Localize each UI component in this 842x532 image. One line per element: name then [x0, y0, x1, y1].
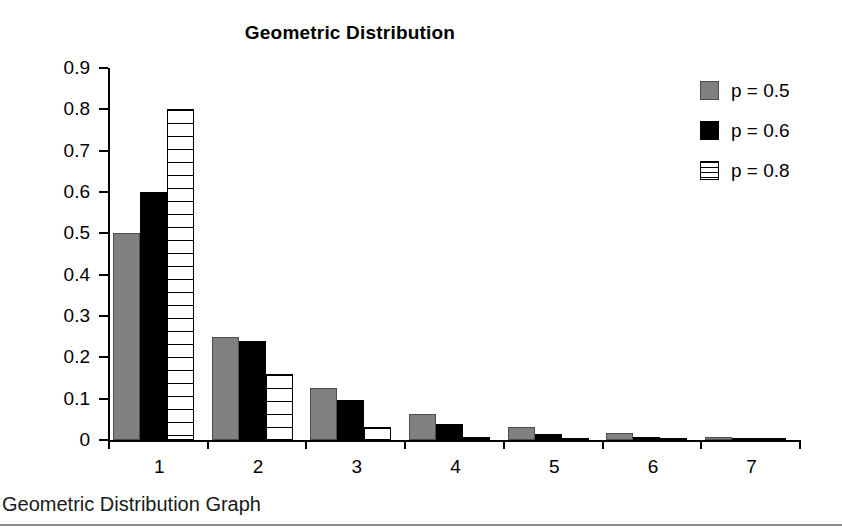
- legend-swatch-icon: [700, 81, 719, 100]
- legend-label: p = 0.6: [731, 121, 790, 140]
- x-axis-tick: [602, 440, 604, 449]
- bar-p0.5-cat6: [606, 433, 633, 440]
- x-axis-tick-label: 1: [129, 456, 189, 478]
- bar-p0.8-cat4: [463, 437, 490, 440]
- bar-p0.6-cat6: [633, 437, 660, 440]
- x-axis-tick-label: 4: [426, 456, 486, 478]
- bar-p0.8-cat7: [759, 438, 786, 440]
- x-axis-tick: [404, 440, 406, 449]
- x-axis-tick-label: 3: [327, 456, 387, 478]
- chart-plot-area: Geometric Distribution 00.10.20.30.40.50…: [0, 0, 842, 480]
- x-axis-tick: [108, 440, 110, 449]
- x-axis-tick-label: 5: [524, 456, 584, 478]
- bar-p0.8-cat2: [266, 374, 293, 440]
- legend-item-p0.5[interactable]: p = 0.5: [700, 70, 840, 110]
- x-axis-tick: [799, 440, 801, 449]
- bars-layer: [0, 0, 842, 440]
- chart-legend: p = 0.5p = 0.6p = 0.8: [700, 70, 840, 190]
- bar-p0.6-cat3: [337, 400, 364, 440]
- x-axis-line: [108, 440, 801, 442]
- caption-divider: [0, 524, 842, 526]
- bar-p0.6-cat1: [140, 192, 167, 440]
- x-axis-tick: [207, 440, 209, 449]
- legend-label: p = 0.8: [731, 161, 790, 180]
- x-axis-tick-label: 6: [623, 456, 683, 478]
- bar-p0.5-cat4: [409, 414, 436, 440]
- x-axis-tick: [305, 440, 307, 449]
- legend-item-p0.8[interactable]: p = 0.8: [700, 150, 840, 190]
- bar-p0.6-cat7: [732, 438, 759, 440]
- legend-label: p = 0.5: [731, 81, 790, 100]
- bar-p0.6-cat4: [436, 424, 463, 440]
- x-axis-tick: [700, 440, 702, 449]
- legend-item-p0.6[interactable]: p = 0.6: [700, 110, 840, 150]
- bar-p0.8-cat1: [167, 109, 194, 440]
- x-axis-tick-label: 7: [722, 456, 782, 478]
- bar-p0.8-cat3: [364, 427, 391, 440]
- bar-p0.5-cat2: [212, 337, 239, 440]
- bar-p0.6-cat2: [239, 341, 266, 440]
- bar-p0.8-cat5: [562, 438, 589, 440]
- bar-p0.5-cat1: [113, 233, 140, 440]
- bar-p0.5-cat3: [310, 388, 337, 440]
- bar-p0.5-cat7: [705, 437, 732, 440]
- x-axis-tick: [503, 440, 505, 449]
- bar-p0.5-cat5: [508, 427, 535, 440]
- figure-caption: Geometric Distribution Graph: [2, 492, 261, 516]
- legend-swatch-icon: [700, 121, 719, 140]
- x-axis-tick-label: 2: [228, 456, 288, 478]
- legend-swatch-icon: [700, 161, 719, 180]
- bar-p0.8-cat6: [660, 438, 687, 440]
- bar-p0.6-cat5: [535, 434, 562, 440]
